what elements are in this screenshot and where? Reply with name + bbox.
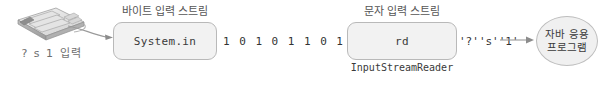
char-stream-values: '?''s''1' xyxy=(459,33,519,49)
java-application-node[interactable]: 자바 응용 프로그램 xyxy=(536,16,598,66)
bit-value: 1 xyxy=(255,35,262,48)
java-application-label-line2: 프로그램 xyxy=(547,41,587,54)
byte-stream-bits: 10101101 xyxy=(219,33,347,49)
byte-stream-label: 바이트 입력 스트림 xyxy=(112,2,218,18)
bit-value: 0 xyxy=(239,35,246,48)
java-application-label-line1: 자바 응용 xyxy=(545,28,588,41)
char-value: '1' xyxy=(499,35,519,48)
keyboard-input-caption: ? s 1 입력 xyxy=(6,44,98,60)
system-in-box[interactable]: System.in xyxy=(113,22,217,60)
input-stream-reader-caption: InputStreamReader xyxy=(347,62,457,73)
char-value: 's' xyxy=(479,35,499,48)
bit-value: 1 xyxy=(288,35,295,48)
char-stream-label: 문자 입력 스트림 xyxy=(348,2,456,18)
char-value: '?' xyxy=(459,35,479,48)
system-in-label: System.in xyxy=(134,35,196,48)
reader-variable-label: rd xyxy=(395,35,409,48)
bit-value: 1 xyxy=(304,35,311,48)
diagram-canvas: ? s 1 입력 바이트 입력 스트림 System.in 10101101 문… xyxy=(0,0,604,87)
bit-value: 0 xyxy=(272,35,279,48)
keyboard-icon xyxy=(12,6,88,44)
bit-value: 1 xyxy=(223,35,230,48)
input-stream-reader-box[interactable]: rd xyxy=(347,22,457,60)
bit-value: 0 xyxy=(320,35,327,48)
bit-value: 1 xyxy=(336,35,343,48)
